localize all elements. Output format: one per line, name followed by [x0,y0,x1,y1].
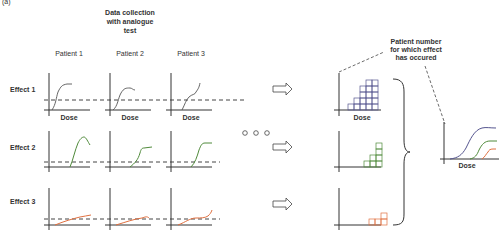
annotation-line1: Patient number [391,38,442,45]
annotation-line2: for which effect [390,46,442,53]
effect-1-patient-1-plot: Dose [44,73,90,121]
diagram-canvas: (a) Data collection with analogue test P… [0,0,499,250]
dose-label: Dose [458,162,475,169]
effect-3-patient-2-plot [105,188,151,230]
effect-1-row: Dose Dose Dose [44,73,245,121]
effect-2-row [44,131,220,172]
annotation-line3: has occured [395,54,436,61]
header-line3: test [124,27,137,34]
annotation-leader-left [339,52,384,72]
effect-1-patient-2-plot: Dose [105,73,151,121]
effect-2-patient-1-plot [44,131,90,172]
effect-1-label: Effect 1 [10,86,35,93]
arrow-icon-2 [273,141,292,153]
header-line2: with analogue [106,18,154,26]
effect-3-patient-3-plot [166,188,212,230]
dose-label: Dose [60,114,77,121]
effect-2-label: Effect 2 [10,144,35,151]
effect-2-patient-2-plot [105,131,152,172]
effect-1-histogram: Dose [334,73,381,121]
dose-label: Dose [353,114,370,121]
arrow-icon-3 [273,198,292,210]
panel-label: (a) [2,0,11,6]
patient-3-label: Patient 3 [177,50,205,57]
brace [393,79,410,225]
effect-3-histogram [334,188,387,230]
ellipsis [243,131,270,136]
dose-label: Dose [121,114,138,121]
dose-label: Dose [182,114,199,121]
effect-2-patient-3-plot [166,131,212,172]
effect-2-histogram [334,131,382,172]
effect-3-row [44,188,220,230]
effect-3-patient-1-plot [44,188,91,230]
patient-1-label: Patient 1 [55,50,83,57]
effect-1-patient-3-plot: Dose [166,73,212,121]
annotation-leader-right [425,66,445,124]
arrow-icon-1 [273,83,292,95]
effect-3-label: Effect 3 [10,198,35,205]
patient-2-label: Patient 2 [116,50,144,57]
combined-dose-response-plot: Dose [440,122,499,169]
header-line1: Data collection [105,9,155,16]
